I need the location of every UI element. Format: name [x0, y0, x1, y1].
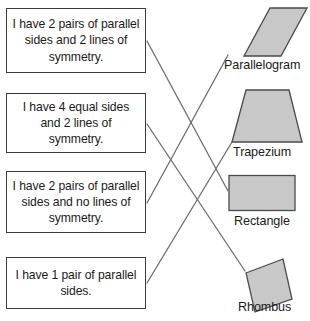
clue-box-1[interactable]: I have 2 pairs of parallel sides and 2 l…	[6, 8, 146, 73]
shape-rectangle[interactable]	[228, 174, 296, 212]
page-top-artifact	[4, 0, 16, 5]
connector-clue1-rectangle	[147, 41, 228, 191]
shape-trapezium[interactable]	[231, 88, 303, 144]
connector-clue3-parallelogram	[147, 55, 228, 203]
trapezium-icon	[231, 88, 303, 144]
connector-clue4-trapezium	[147, 142, 232, 283]
shape-label-parallelogram: Parallelogram	[224, 58, 300, 72]
shape-label-trapezium: Trapezium	[233, 145, 291, 159]
shape-parallelogram[interactable]	[222, 6, 308, 58]
parallelogram-icon	[222, 6, 308, 58]
rectangle-icon	[228, 174, 296, 212]
clue-box-4[interactable]: I have 1 pair of parallel sides.	[6, 257, 146, 309]
worksheet-canvas: I have 2 pairs of parallel sides and 2 l…	[0, 0, 310, 321]
clue-box-3[interactable]: I have 2 pairs of parallel sides and no …	[6, 171, 146, 233]
shape-label-rhombus: Rhombus	[238, 300, 291, 314]
clue-box-2[interactable]: I have 4 equal sides and 2 lines of symm…	[6, 93, 146, 153]
shape-label-rectangle: Rectangle	[234, 214, 290, 228]
